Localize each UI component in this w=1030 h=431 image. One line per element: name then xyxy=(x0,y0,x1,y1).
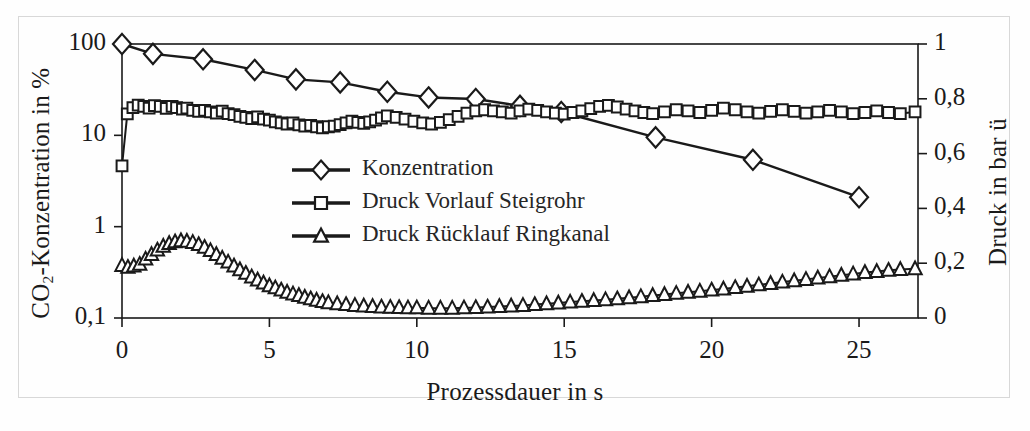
y-axis-left-tick-label: 10 xyxy=(6,119,106,147)
legend-label: Druck Vorlauf Steigrohr xyxy=(362,188,585,214)
x-axis-tick-label: 0 xyxy=(72,336,172,364)
y-axis-right-tick-label: 0,8 xyxy=(934,83,1030,111)
y-axis-left-title-suffix: -Konzentration in % xyxy=(27,68,54,276)
y-axis-left-tick-label: 100 xyxy=(6,28,106,56)
y-axis-left-tick-label: 1 xyxy=(6,211,106,239)
legend-marker-diamond xyxy=(290,157,352,183)
y-axis-right-tick-label: 0,4 xyxy=(934,192,1030,220)
series-diamond xyxy=(113,34,868,207)
y-axis-left-title-sub: 2 xyxy=(39,276,56,284)
legend-marker-triangle xyxy=(290,223,352,249)
y-axis-left-tick-label: 0,1 xyxy=(6,302,106,330)
x-axis-tick-label: 5 xyxy=(219,336,319,364)
x-axis-tick-label: 20 xyxy=(662,336,762,364)
x-axis-tick-label: 15 xyxy=(514,336,614,364)
chart-plot-area xyxy=(0,0,1030,431)
legend-label: Konzentration xyxy=(362,155,494,181)
x-axis-title: Prozessdauer in s xyxy=(0,378,1030,406)
y-axis-right-tick-label: 0,6 xyxy=(934,138,1030,166)
legend-marker-square xyxy=(290,190,352,216)
y-axis-right-tick-label: 0,2 xyxy=(934,247,1030,275)
x-axis-tick-label: 25 xyxy=(809,336,909,364)
series-square xyxy=(117,100,921,172)
legend-label: Druck Rücklauf Ringkanal xyxy=(362,221,610,247)
y-axis-right-tick-label: 1 xyxy=(934,28,1030,56)
chart-figure: CO2-Konzentration in % Druck in bar ü Pr… xyxy=(0,0,1030,431)
x-axis-tick-label: 10 xyxy=(367,336,467,364)
y-axis-right-tick-label: 0 xyxy=(934,302,1030,330)
